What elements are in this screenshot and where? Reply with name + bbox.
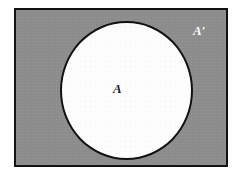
set-a-complement-label: A′ bbox=[193, 24, 205, 37]
venn-diagram-figure: A A′ bbox=[0, 0, 238, 179]
set-a-label: A bbox=[113, 82, 122, 95]
set-a-circle bbox=[60, 21, 193, 160]
